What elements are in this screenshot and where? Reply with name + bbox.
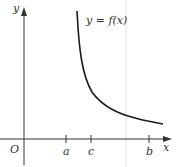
curve bbox=[77, 11, 163, 124]
x-axis-label: x bbox=[163, 141, 170, 154]
tick-label-c: c bbox=[88, 145, 94, 158]
tick-label-b: b bbox=[146, 145, 153, 158]
y-axis-arrow-icon bbox=[21, 7, 27, 16]
y-axis-label: y bbox=[12, 2, 20, 15]
tick-label-a: a bbox=[63, 145, 70, 158]
function-graph: y = f(x) y x O a c b bbox=[0, 0, 180, 167]
curve-label: y = f(x) bbox=[85, 14, 127, 27]
origin-label: O bbox=[10, 143, 19, 156]
